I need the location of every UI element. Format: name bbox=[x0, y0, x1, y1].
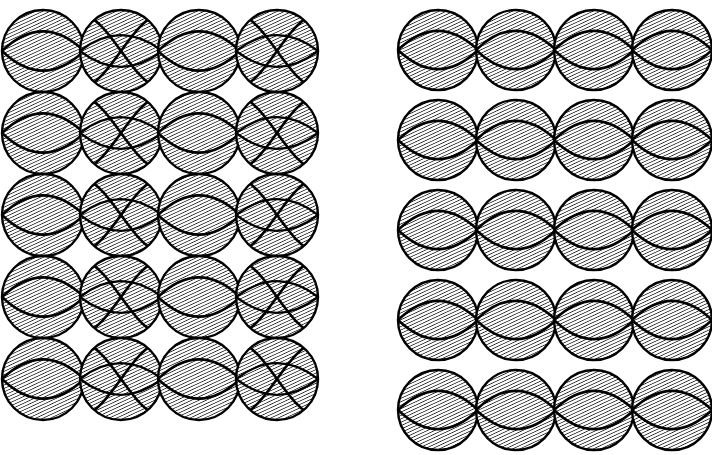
circle-row bbox=[2, 256, 318, 338]
hatched-circle bbox=[398, 370, 478, 450]
square-packed-lattice bbox=[2, 10, 318, 420]
diagram-canvas bbox=[0, 0, 712, 455]
hatched-circle bbox=[476, 370, 556, 450]
hatched-circle bbox=[2, 10, 84, 92]
circle-row bbox=[2, 338, 318, 420]
circle-row bbox=[398, 280, 712, 360]
hatched-circle bbox=[554, 190, 634, 270]
hatched-circle bbox=[158, 10, 240, 92]
hatched-circle bbox=[476, 10, 556, 90]
hatched-circle bbox=[236, 10, 318, 92]
hatched-circle bbox=[80, 338, 162, 420]
circle-row bbox=[2, 10, 318, 92]
hatched-circle bbox=[554, 100, 634, 180]
hatched-circle bbox=[158, 256, 240, 338]
hatched-circle bbox=[80, 174, 162, 256]
hatched-circle bbox=[158, 174, 240, 256]
hatched-circle bbox=[236, 174, 318, 256]
circle-row bbox=[2, 174, 318, 256]
circle-row bbox=[398, 100, 712, 180]
hatched-circle bbox=[554, 370, 634, 450]
circle-row bbox=[398, 370, 712, 450]
circle-row bbox=[398, 10, 712, 90]
hatched-circle bbox=[236, 92, 318, 174]
hatched-circle bbox=[80, 256, 162, 338]
hatched-circle bbox=[158, 92, 240, 174]
hatched-circle bbox=[2, 92, 84, 174]
hatched-circle bbox=[476, 100, 556, 180]
hatched-circle bbox=[2, 174, 84, 256]
hatched-circle bbox=[80, 10, 162, 92]
hatched-circle bbox=[236, 338, 318, 420]
hatched-circle bbox=[554, 10, 634, 90]
hatched-circle bbox=[632, 280, 712, 360]
hatched-circle bbox=[632, 370, 712, 450]
hatched-circle bbox=[476, 280, 556, 360]
row-separated-lattice bbox=[398, 10, 712, 450]
hatched-circle bbox=[80, 92, 162, 174]
hatched-circle bbox=[2, 256, 84, 338]
hatched-circle bbox=[398, 100, 478, 180]
hatched-circle bbox=[2, 338, 84, 420]
hatched-circle bbox=[632, 190, 712, 270]
hatched-circle bbox=[632, 10, 712, 90]
hatched-circle bbox=[554, 280, 634, 360]
hatched-circle bbox=[398, 10, 478, 90]
circle-row bbox=[2, 92, 318, 174]
hatched-circle bbox=[476, 190, 556, 270]
packing-diagram-svg bbox=[0, 0, 712, 455]
hatched-circle bbox=[398, 280, 478, 360]
hatched-circle bbox=[158, 338, 240, 420]
circle-row bbox=[398, 190, 712, 270]
hatched-circle bbox=[398, 190, 478, 270]
hatched-circle bbox=[632, 100, 712, 180]
hatched-circle bbox=[236, 256, 318, 338]
